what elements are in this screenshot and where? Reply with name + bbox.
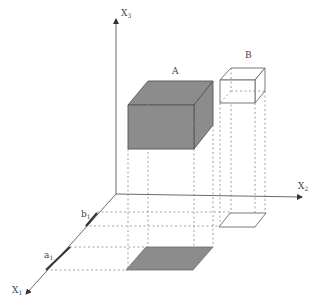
- box-b-label: B: [245, 50, 252, 60]
- box-a-footprint: [126, 247, 213, 270]
- b1-label: b1: [81, 209, 91, 220]
- x2-axis: [116, 194, 302, 197]
- box-a-label: A: [171, 66, 179, 76]
- x1-label: X1: [12, 285, 22, 296]
- x1-axis: [26, 194, 116, 294]
- box-b: [220, 68, 265, 103]
- box-b-footprint: [219, 213, 266, 227]
- box-projection-diagram: X3 X2 X1 A B a1 b1: [0, 0, 319, 307]
- x2-label: X2: [298, 181, 308, 192]
- box-a: [128, 81, 213, 149]
- a1-label: a1: [44, 250, 53, 261]
- x3-label: X3: [121, 8, 131, 19]
